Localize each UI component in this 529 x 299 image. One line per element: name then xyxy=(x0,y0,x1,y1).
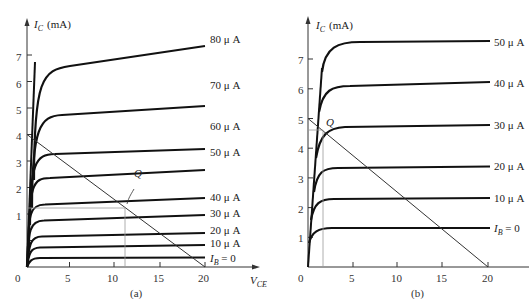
chart-a: 1 2 3 4 5 6 7 0 5 10 15 20 IC(mA) VCE xyxy=(15,18,267,299)
x-axis-arrow-icon xyxy=(252,265,260,270)
curve-label-ib-30: 30 μ A xyxy=(210,207,240,219)
y-tick-label: 1 xyxy=(16,210,22,222)
y-tick-label: 3 xyxy=(16,157,22,169)
curve-label-ib-80: 80 μ A xyxy=(210,33,240,45)
x-tick-label: 15 xyxy=(153,272,165,284)
y-tick-label: 3 xyxy=(298,173,304,185)
x-tick-label: 10 xyxy=(391,272,403,284)
y-tick-label: 1 xyxy=(298,232,304,244)
y-axis-arrow-icon xyxy=(306,16,311,24)
y-tick-label: 6 xyxy=(298,84,304,96)
y-tick-label: 4 xyxy=(16,130,22,142)
x-tick-label: 5 xyxy=(65,272,71,284)
curve-ib-60 xyxy=(30,149,205,225)
x-tick-label: 20 xyxy=(198,272,210,284)
x-axis-title-a: VCE xyxy=(250,274,267,289)
curve-label-ib-10: 10 μ A xyxy=(210,237,240,249)
x-tick-label-origin: 0 xyxy=(15,272,21,284)
curve-ib-30 xyxy=(27,215,205,267)
curve-label-ib-40: 40 μ A xyxy=(210,191,240,203)
load-line-b xyxy=(308,119,488,268)
x-tick-label: 15 xyxy=(436,272,448,284)
y-tick-label: 7 xyxy=(16,51,22,63)
x-ticks-b xyxy=(353,262,488,267)
curve-ib-40 xyxy=(319,82,490,112)
curve-ib-0 xyxy=(27,258,205,268)
y-tick-label: 4 xyxy=(298,143,304,155)
y-axis-title-a: IC(mA) xyxy=(33,18,71,33)
x-ticks-a xyxy=(70,262,206,267)
curve-ib-30 xyxy=(316,125,490,158)
curve-ib-10 xyxy=(27,245,205,267)
figure-canvas: 1 2 3 4 5 6 7 0 5 10 15 20 IC(mA) VCE xyxy=(0,0,529,299)
y-tick-label: 6 xyxy=(16,78,22,90)
curve-label-ib-70: 70 μ A xyxy=(210,79,240,91)
q-point-label-a: Q xyxy=(134,167,142,179)
curve-label-ib-40: 40 μ A xyxy=(494,77,524,89)
curve-label-ib-60: 60 μ A xyxy=(210,120,240,132)
curve-label-ib-0: IB = 0 xyxy=(209,252,236,267)
x-tick-label-origin: 0 xyxy=(298,272,304,284)
q-point-label-b: Q xyxy=(326,116,334,128)
curve-ib-20 xyxy=(27,233,205,267)
curve-ib-50 xyxy=(322,41,490,72)
curve-ib-80 xyxy=(34,46,205,180)
x-tick-label: 10 xyxy=(107,272,119,284)
x-tick-label: 20 xyxy=(482,272,494,284)
y-tick-label: 5 xyxy=(16,104,22,116)
curve-label-ib-30: 30 μ A xyxy=(494,119,524,131)
collector-curves-a xyxy=(27,46,205,267)
caption-a: (a) xyxy=(130,287,143,299)
curve-label-ib-50: 50 μ A xyxy=(210,146,240,158)
curve-label-ib-10: 10 μ A xyxy=(494,192,524,204)
saturation-edge-b xyxy=(308,68,322,267)
y-axis-arrow-icon xyxy=(25,18,30,26)
curve-label-ib-0: IB = 0 xyxy=(493,222,520,237)
curve-ib-0 xyxy=(309,228,490,243)
y-axis-title-b: IC(mA) xyxy=(315,19,353,34)
y-tick-label: 2 xyxy=(16,183,22,195)
curve-label-ib-20: 20 μ A xyxy=(210,224,240,236)
y-tick-label: 7 xyxy=(298,54,304,66)
y-tick-label: 5 xyxy=(298,114,304,126)
curve-ib-20 xyxy=(314,167,490,193)
y-tick-label: 2 xyxy=(298,203,304,215)
curve-label-ib-50: 50 μ A xyxy=(494,36,524,48)
x-tick-label: 5 xyxy=(349,272,355,284)
caption-b: (b) xyxy=(411,287,424,299)
chart-b: 1 2 3 4 5 6 7 0 5 10 15 20 IC(mA) Q xyxy=(298,16,529,299)
curve-ib-10 xyxy=(311,198,490,220)
curve-label-ib-20: 20 μ A xyxy=(494,160,524,172)
